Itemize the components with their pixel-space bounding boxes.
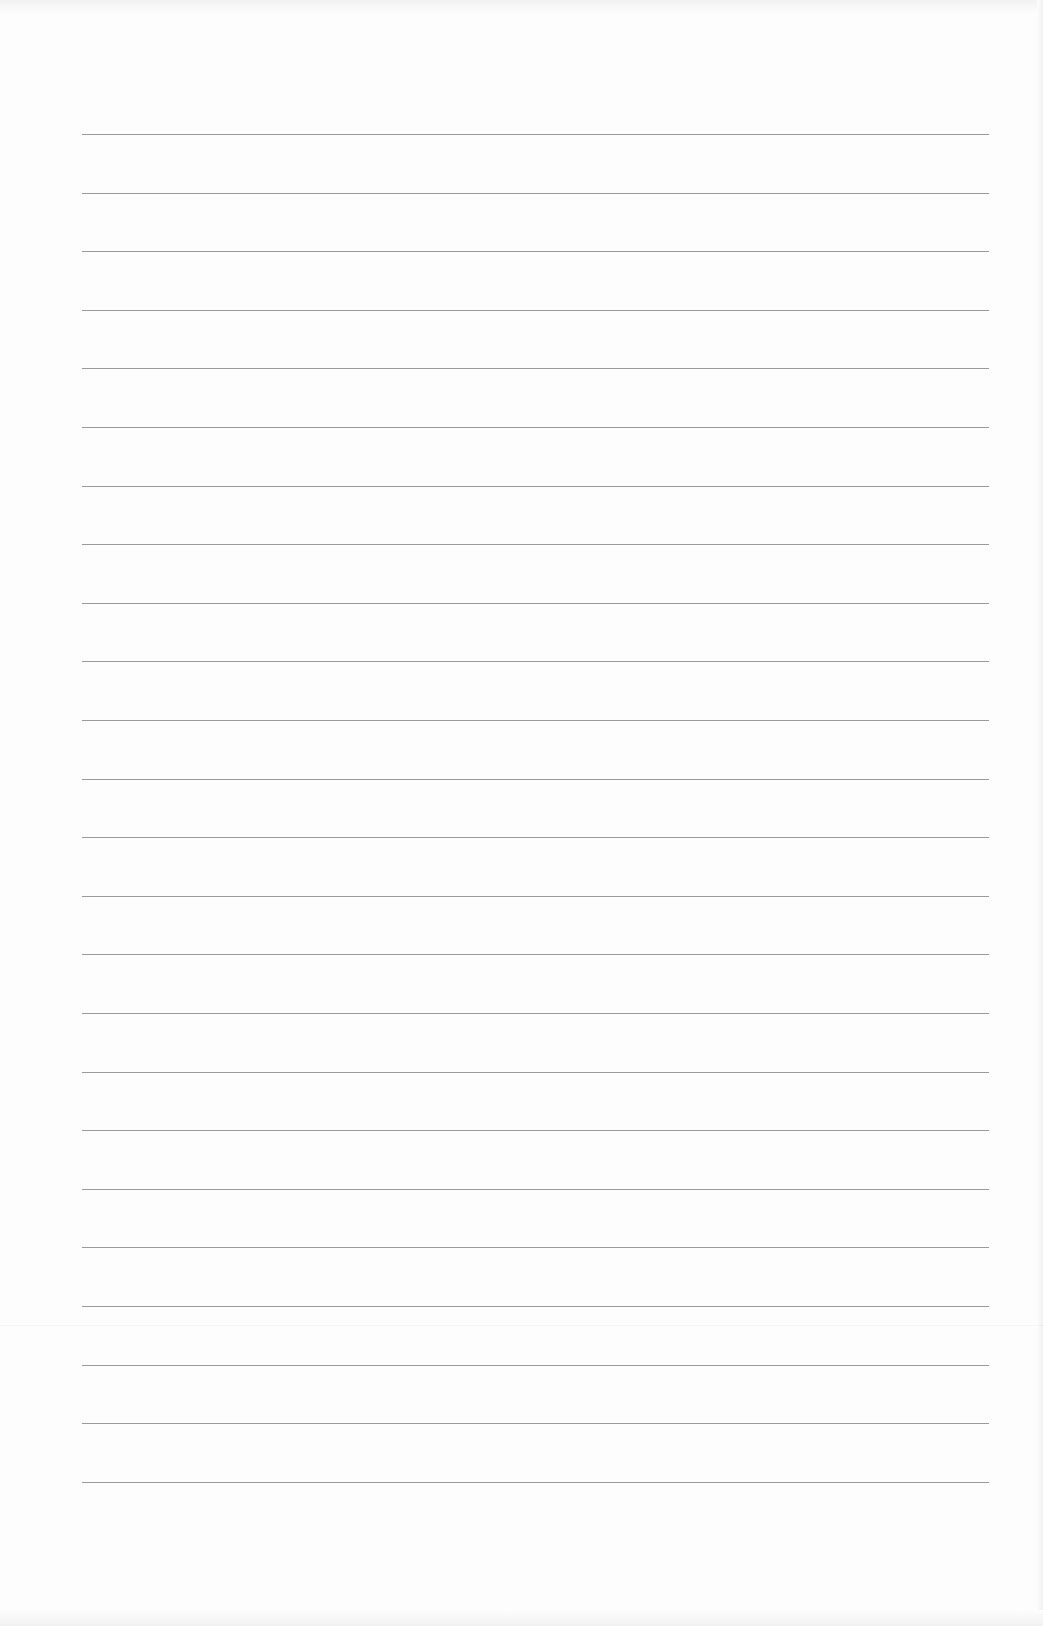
ruled-line <box>82 661 989 662</box>
ruled-line <box>82 193 989 194</box>
ruled-line <box>82 486 989 487</box>
ruled-line <box>82 837 989 838</box>
ruled-line <box>82 368 989 369</box>
ruled-line <box>82 1482 989 1483</box>
ruled-line <box>82 954 989 955</box>
paper-fold-mark <box>0 1325 1043 1326</box>
ruled-line <box>82 720 989 721</box>
ruled-line <box>82 310 989 311</box>
ruled-line <box>82 1423 989 1424</box>
ruled-line <box>82 896 989 897</box>
paper-right-edge <box>1037 0 1043 1626</box>
ruled-line <box>82 1365 989 1366</box>
paper-bottom-edge <box>0 1610 1043 1626</box>
ruled-line <box>82 1130 989 1131</box>
paper-top-edge <box>0 0 1043 14</box>
ruled-line <box>82 1306 989 1307</box>
ruled-line <box>82 779 989 780</box>
ruled-line <box>82 1013 989 1014</box>
ruled-line <box>82 1247 989 1248</box>
ruled-line <box>82 251 989 252</box>
ruled-line <box>82 603 989 604</box>
ruled-line <box>82 427 989 428</box>
ruled-line <box>82 1072 989 1073</box>
ruled-line <box>82 134 989 135</box>
ruled-line <box>82 544 989 545</box>
ruled-line <box>82 1189 989 1190</box>
lined-paper-page: { "page": { "type": "blank lined paper",… <box>0 0 1043 1626</box>
